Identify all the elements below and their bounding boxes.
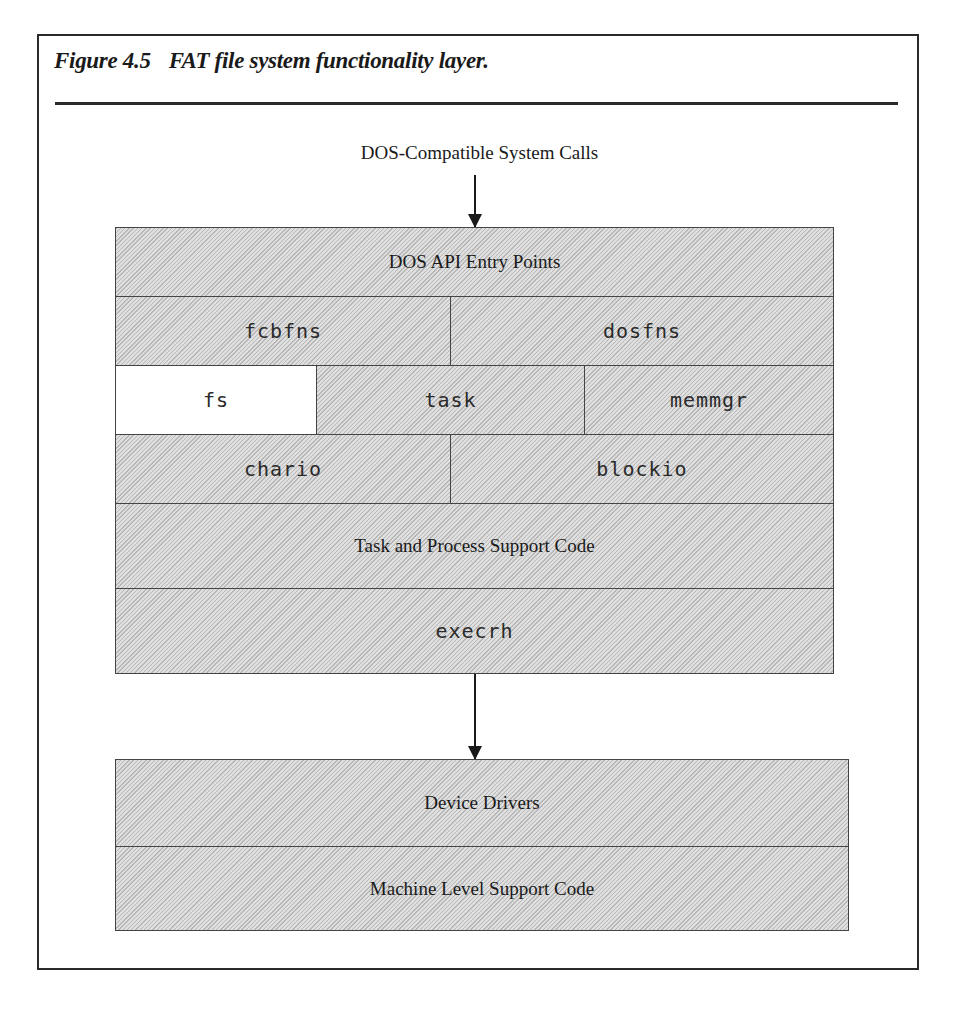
figure-number: Figure 4.5 xyxy=(54,48,151,73)
layer-machine-support: Machine Level Support Code xyxy=(116,846,848,930)
layer-device-drivers: Device Drivers xyxy=(116,760,848,846)
lower-layer-stack: Device Drivers Machine Level Support Cod… xyxy=(115,759,849,931)
layer-io: chario blockio xyxy=(116,434,833,503)
module-fs: fs xyxy=(116,366,316,434)
module-dosfns: dosfns xyxy=(450,297,833,365)
module-fcbfns: fcbfns xyxy=(116,297,450,365)
module-task: task xyxy=(316,366,584,434)
layer-task-process: Task and Process Support Code xyxy=(116,503,833,588)
machine-level-support-code: Machine Level Support Code xyxy=(116,847,848,930)
module-blockio: blockio xyxy=(450,435,833,503)
layer-dos-api: DOS API Entry Points xyxy=(116,228,833,296)
figure-caption: Figure 4.5FAT file system functionality … xyxy=(54,48,489,74)
device-drivers: Device Drivers xyxy=(116,760,848,846)
module-execrh: execrh xyxy=(116,589,833,673)
module-memmgr: memmgr xyxy=(584,366,833,434)
layer-fs-task-mem: fs task memmgr xyxy=(116,365,833,434)
arrow-down-icon xyxy=(474,175,476,227)
layer-execrh: execrh xyxy=(116,588,833,673)
upper-layer-stack: DOS API Entry Points fcbfns dosfns fs ta… xyxy=(115,227,834,674)
layer-fcb-dos: fcbfns dosfns xyxy=(116,296,833,365)
title-rule xyxy=(55,102,898,105)
top-label: DOS-Compatible System Calls xyxy=(0,142,959,164)
dos-api-entry-points: DOS API Entry Points xyxy=(116,228,833,296)
figure-title: FAT file system functionality layer. xyxy=(169,48,489,73)
task-process-support-code: Task and Process Support Code xyxy=(116,504,833,588)
module-chario: chario xyxy=(116,435,450,503)
arrow-down-icon xyxy=(474,674,476,759)
